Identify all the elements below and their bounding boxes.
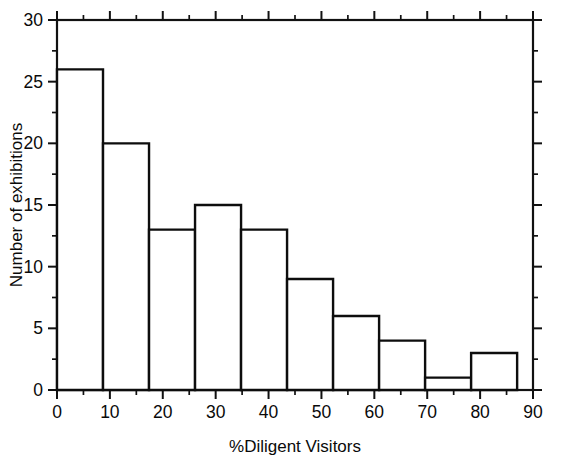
x-tick-label: 80 [470, 402, 490, 422]
histogram-bar [379, 341, 425, 390]
y-tick-label: 25 [24, 72, 43, 92]
histogram-chart: 0102030405060708090 051015202530 %Dilige… [0, 0, 584, 462]
histogram-bar [149, 230, 195, 390]
x-tick-label: 0 [52, 402, 62, 422]
histogram-bar [241, 230, 287, 390]
x-tick-label: 60 [365, 402, 385, 422]
y-tick-label: 20 [24, 133, 44, 153]
histogram-bar [57, 69, 103, 390]
histogram-bar [287, 279, 333, 390]
y-tick-label: 30 [24, 10, 44, 30]
x-tick-label: 50 [312, 402, 332, 422]
x-tick-label: 70 [417, 402, 437, 422]
y-tick-label: 10 [24, 257, 44, 277]
y-axis-tick-labels: 051015202530 [24, 10, 44, 400]
histogram-bar [195, 205, 241, 390]
histogram-bar [471, 353, 517, 390]
histogram-svg: 0102030405060708090 051015202530 %Dilige… [0, 0, 584, 462]
histogram-bar [425, 378, 471, 390]
x-axis-tick-labels: 0102030405060708090 [52, 402, 543, 422]
x-tick-label: 40 [259, 402, 279, 422]
x-tick-label: 90 [523, 402, 543, 422]
y-tick-label: 15 [24, 195, 43, 215]
histogram-bar [333, 316, 379, 390]
x-tick-label: 30 [206, 402, 226, 422]
x-tick-label: 10 [100, 402, 120, 422]
y-tick-label: 5 [33, 318, 43, 338]
y-tick-label: 0 [33, 380, 43, 400]
y-axis-title: Number of exhibitions [7, 123, 26, 287]
x-axis-title: %Diligent Visitors [229, 437, 361, 456]
histogram-bar [103, 143, 149, 390]
x-tick-label: 20 [153, 402, 173, 422]
histogram-bars [57, 69, 517, 390]
